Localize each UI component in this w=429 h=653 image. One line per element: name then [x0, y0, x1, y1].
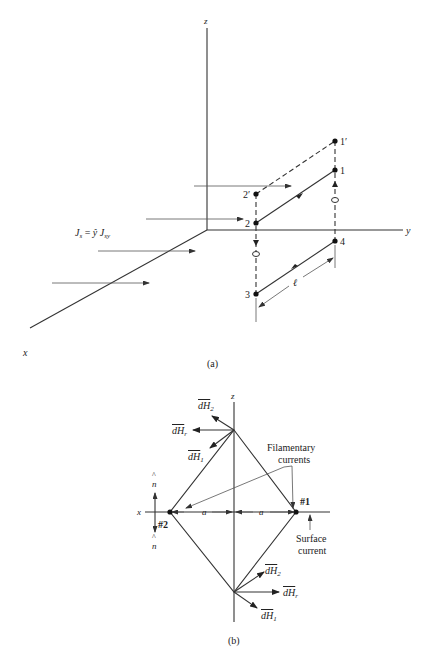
filament-2-label: #2	[158, 519, 168, 530]
point-2	[253, 220, 258, 225]
point-2prime-label: 2′	[243, 189, 250, 200]
figure-b: z x #2 #1 a a ^ n ^ n Filamentary curren…	[136, 391, 330, 647]
point-4	[332, 238, 337, 243]
figure-a: z y x Js = ŷ Jsy	[22, 16, 411, 370]
point-1	[332, 167, 337, 172]
x-axis-label: x	[136, 507, 141, 517]
filament-1	[293, 509, 298, 514]
surface-current-label: Surface	[296, 533, 327, 544]
point-2prime	[253, 191, 258, 196]
filament-1-label: #1	[300, 496, 310, 507]
point-3	[253, 291, 258, 296]
surface-current-label: current	[298, 545, 327, 556]
svg-text:Js = ŷ Jsy: Js = ŷ Jsy	[75, 227, 111, 240]
arrow-down-icon	[253, 240, 259, 246]
arrow-up-icon	[332, 181, 338, 187]
z-axis-label: z	[230, 391, 235, 401]
point-3-label: 3	[245, 289, 250, 300]
y-axis-label: y	[405, 225, 411, 236]
length-dimension-line	[303, 258, 333, 277]
point-1-label: 1	[340, 165, 345, 176]
pointer-arrow	[292, 466, 293, 508]
filamentary-label: currents	[278, 454, 310, 465]
dHr-bottom-label: dHr	[283, 587, 298, 600]
gap-ellipse	[332, 198, 339, 203]
dH2-top-label: dH2	[198, 400, 214, 413]
caption-b: (b)	[228, 635, 240, 647]
vector-dH2-top	[212, 416, 234, 430]
surface-current-label: Js = ŷ Jsy	[75, 227, 111, 240]
distance-a-left: a	[202, 507, 207, 517]
x-axis	[30, 230, 207, 328]
point-1prime-label: 1′	[340, 136, 347, 147]
point-4-label: 4	[340, 236, 345, 247]
x-axis-label: x	[22, 347, 28, 358]
dH2-bottom-label: dH2	[265, 565, 281, 578]
vector-dH2-bottom	[234, 572, 264, 592]
contour-edge-1-2	[256, 170, 335, 223]
dHr-top-label: dHr	[172, 425, 187, 438]
normal-up-label: n	[152, 479, 157, 489]
distance-a-right: a	[259, 507, 264, 517]
dH1-bottom-label: dH1	[261, 610, 277, 623]
normal-down-label: n	[152, 541, 157, 551]
z-axis-label: z	[203, 16, 208, 26]
dH1-top-label: dH1	[188, 451, 204, 464]
caption-a: (a)	[207, 358, 218, 370]
point-2-label: 2	[245, 218, 250, 229]
filamentary-label: Filamentary	[267, 442, 315, 453]
vector-dH1-bottom	[234, 592, 257, 608]
point-1prime	[332, 138, 337, 143]
pointer-line	[284, 466, 292, 467]
gap-ellipse	[253, 252, 260, 257]
figure-canvas: z y x Js = ŷ Jsy	[0, 0, 429, 653]
length-label: ℓ	[293, 277, 297, 288]
filament-2	[167, 509, 172, 514]
